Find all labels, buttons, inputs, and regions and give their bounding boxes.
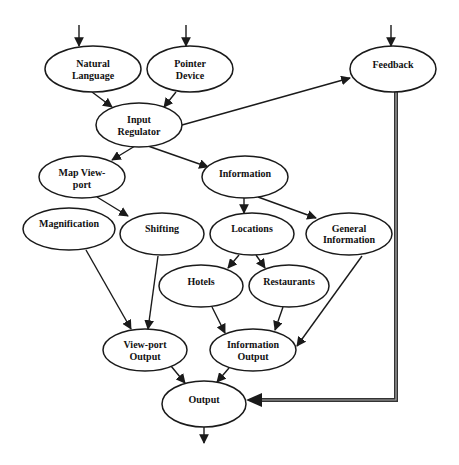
- node-label: Output: [237, 351, 269, 362]
- edge-hotels-information-output: [212, 307, 225, 333]
- node-output: Output: [162, 381, 246, 427]
- node-shifting: Shifting: [120, 213, 204, 255]
- edge-locations-restaurants: [256, 255, 265, 268]
- node-label: Hotels: [187, 276, 214, 287]
- node-label: Information: [219, 168, 272, 179]
- node-label: Output: [188, 394, 220, 405]
- node-label: Map View-: [59, 167, 106, 178]
- node-pointer-device: Pointer Device: [147, 46, 233, 92]
- node-label: Output: [129, 351, 161, 362]
- node-locations: Locations: [210, 213, 294, 255]
- node-restaurants: Restaurants: [249, 265, 329, 307]
- node-label: Feedback: [372, 59, 414, 70]
- node-general-information: General Information: [306, 213, 392, 255]
- edge-input-regulator-map-viewport: [112, 146, 135, 160]
- edge-input-regulator-information: [148, 146, 208, 167]
- node-label: Magnification: [39, 218, 99, 229]
- node-label: Natural: [76, 58, 110, 69]
- node-label: Restaurants: [263, 276, 315, 287]
- node-label: Information: [323, 234, 376, 245]
- node-magnification: Magnification: [23, 208, 115, 250]
- node-information-output: Information Output: [210, 329, 296, 371]
- node-label: Shifting: [145, 223, 179, 234]
- node-hotels: Hotels: [159, 265, 243, 307]
- node-information: Information: [202, 156, 288, 198]
- node-label: View-port: [124, 339, 168, 350]
- edge-natural-language-input-regulator: [92, 92, 112, 107]
- edge-pointer-device-input-regulator: [164, 92, 176, 107]
- node-natural-language: Natural Language: [45, 46, 141, 92]
- node-feedback: Feedback: [350, 46, 436, 92]
- edge-shifting-viewport-output: [148, 256, 158, 329]
- edge-map-viewport-shifting: [97, 197, 128, 216]
- edge-magnification-viewport-output: [86, 250, 131, 329]
- node-label: Device: [176, 70, 205, 81]
- node-input-regulator: Input Regulator: [96, 103, 182, 147]
- node-label: Pointer: [174, 58, 206, 69]
- edge-viewport-output-output: [171, 366, 185, 383]
- flow-diagram: Natural Language Pointer Device Feedback…: [0, 0, 459, 465]
- edge-information-output-output: [217, 368, 229, 382]
- node-label: Information: [227, 339, 280, 350]
- node-viewport-output: View-port Output: [103, 329, 187, 371]
- edge-locations-hotels: [228, 255, 239, 268]
- double-arrowhead-icon: [246, 393, 262, 407]
- edge-restaurants-information-output: [275, 307, 283, 330]
- node-label: Input: [127, 114, 152, 125]
- node-label: Language: [72, 70, 115, 81]
- node-map-viewport: Map View- port: [39, 156, 125, 198]
- node-label: port: [73, 179, 92, 190]
- node-label: General: [332, 223, 367, 234]
- node-label: Locations: [231, 223, 273, 234]
- node-label: Regulator: [118, 126, 161, 137]
